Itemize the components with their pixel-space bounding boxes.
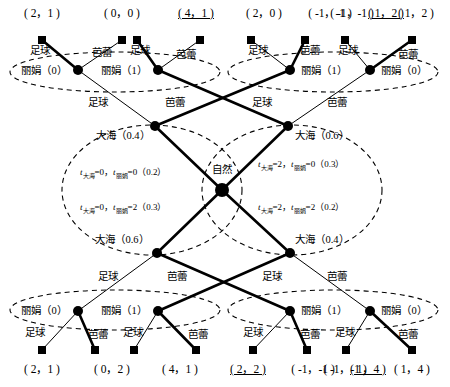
action-mid-3: 足球 bbox=[252, 98, 272, 109]
node-label-upper-p2-3: 丽娟（1） bbox=[301, 66, 346, 77]
nature-branch-2: t大海=2，t丽娟=0（0.3） bbox=[258, 160, 344, 171]
action-mid-4: 芭蕾 bbox=[327, 98, 347, 109]
payoff-bot-8: ( 1，4 ) bbox=[394, 364, 430, 376]
action-bot-3: 足球 bbox=[123, 328, 143, 339]
action-bot-2: 芭蕾 bbox=[88, 330, 108, 341]
payoff-bot-4: ( 2，2 ) bbox=[230, 364, 266, 376]
action-lowmid-1: 足球 bbox=[98, 272, 118, 283]
action-lowmid-4: 芭蕾 bbox=[327, 272, 347, 283]
action-lowmid-2: 芭蕾 bbox=[167, 272, 187, 283]
payoff-bot-1: ( 2，1 ) bbox=[24, 364, 60, 376]
nature-branch-1-t2: t丽娟=0 bbox=[113, 167, 137, 177]
action-top-2: 芭蕾 bbox=[92, 48, 112, 59]
action-bot-7: 足球 bbox=[335, 328, 355, 339]
node-label-lower-p1-right: 大海（0.4） bbox=[295, 235, 348, 246]
payoff-bot-7: ( -1，-1 ) bbox=[323, 364, 367, 376]
node-label-lower-p2-1: 丽娟（0） bbox=[21, 306, 66, 317]
action-bot-5: 足球 bbox=[243, 328, 263, 339]
payoff-top-4: ( 2，0 ) bbox=[246, 8, 282, 20]
action-bot-1: 足球 bbox=[25, 328, 45, 339]
nature-branch-3-t2: t丽娟=2 bbox=[113, 202, 137, 212]
action-top-7: 足球 bbox=[338, 46, 358, 57]
edge-nature-upper-right bbox=[222, 126, 288, 190]
action-bot-8: 芭蕾 bbox=[398, 330, 418, 341]
action-mid-2: 芭蕾 bbox=[165, 98, 185, 109]
node-label-upper-p1-left: 大海（0.4） bbox=[96, 131, 149, 142]
payoff-bot-3: ( 4，1 ) bbox=[162, 364, 198, 376]
payoff-top-8: ( 1，2 ) bbox=[398, 8, 434, 20]
node-label-lower-p1-left: 大海（0.6） bbox=[95, 235, 148, 246]
action-top-4: 芭蕾 bbox=[176, 50, 196, 61]
action-mid-1: 足球 bbox=[88, 98, 108, 109]
action-top-3: 足球 bbox=[130, 46, 150, 57]
nature-branch-3-t1: t大海=0 bbox=[80, 202, 104, 212]
nature-node-label: 自然 bbox=[212, 165, 232, 176]
edge-nature-upper-left bbox=[155, 126, 222, 190]
action-top-6: 芭蕾 bbox=[300, 46, 320, 57]
edge-nature-lower-right bbox=[222, 190, 290, 253]
tree-canvas bbox=[0, 0, 450, 387]
nature-branch-4: t大海=2，t丽娟=2（0.2） bbox=[258, 203, 344, 214]
action-lowmid-3: 足球 bbox=[262, 272, 282, 283]
game-tree-figure: ( 2，1 ) ( 0，0 ) ( 4，1 ) ( 2，0 ) ( -1，-1 … bbox=[0, 0, 450, 387]
node-label-lower-p2-3: 丽娟（1） bbox=[301, 306, 346, 317]
payoff-top-7: ( -1，-1 ) bbox=[330, 8, 374, 20]
payoff-bot-2: ( 0，2 ) bbox=[94, 364, 130, 376]
action-top-8: 芭蕾 bbox=[398, 50, 418, 61]
node-label-lower-p2-4: 丽娟（0） bbox=[381, 306, 426, 317]
nature-branch-1: t大海=0，t丽娟=0（0.2） bbox=[80, 168, 166, 179]
edge-bot-a-football bbox=[42, 311, 78, 350]
action-top-1: 足球 bbox=[30, 46, 50, 57]
payoff-top-1: ( 2，1 ) bbox=[24, 8, 60, 20]
edge-nature-lower-left bbox=[157, 190, 222, 253]
nature-branch-4-t2: t丽娟=2 bbox=[291, 202, 315, 212]
action-bot-4: 芭蕾 bbox=[188, 330, 208, 341]
nature-branch-3: t大海=0，t丽娟=2（0.3） bbox=[80, 203, 166, 214]
action-top-5: 足球 bbox=[248, 46, 268, 57]
node-label-upper-p2-2: 丽娟（1） bbox=[101, 66, 146, 77]
action-bot-6: 芭蕾 bbox=[300, 330, 320, 341]
node-label-upper-p2-4: 丽娟（0） bbox=[381, 66, 426, 77]
payoff-top-3: ( 4，1 ) bbox=[178, 8, 214, 20]
nature-branch-1-t1: t大海=0 bbox=[80, 167, 104, 177]
node-label-upper-p2-1: 丽娟（0） bbox=[21, 66, 66, 77]
node-label-lower-p2-2: 丽娟（1） bbox=[101, 306, 146, 317]
nature-branch-2-t1: t大海=2 bbox=[258, 159, 282, 169]
nature-branch-2-t2: t丽娟=0 bbox=[291, 159, 315, 169]
payoff-top-2: ( 0，0 ) bbox=[104, 8, 140, 20]
node-label-upper-p1-right: 大海（0.6） bbox=[295, 131, 348, 142]
nature-branch-4-t1: t大海=2 bbox=[258, 202, 282, 212]
